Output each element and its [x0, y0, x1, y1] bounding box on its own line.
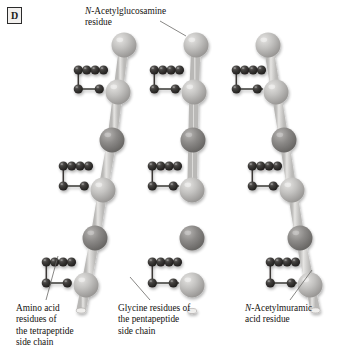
sphere-specular-highlight	[150, 259, 153, 261]
glycine-residue-sphere	[169, 181, 178, 190]
sphere-specular-highlight	[173, 86, 176, 88]
label-amino-line4: side chain	[16, 337, 53, 347]
sphere-specular-highlight	[234, 86, 237, 88]
nam-residue-sphere	[181, 128, 206, 153]
amino-acid-residue-sphere	[148, 161, 157, 170]
amino-acid-residue-sphere	[257, 65, 266, 74]
amino-acid-residue-sphere	[50, 257, 59, 266]
amino-acid-residue-sphere	[67, 257, 76, 266]
label-nam-line2: acid residue	[245, 314, 290, 324]
sphere-specular-highlight	[69, 259, 72, 261]
sphere-specular-highlight	[61, 163, 64, 165]
sphere-specular-highlight	[61, 183, 64, 185]
amino-acid-residue-sphere	[248, 161, 257, 170]
sphere-specular-highlight	[152, 67, 155, 69]
amino-acid-residue-sphere	[59, 161, 68, 170]
glycine-residue-sphere	[269, 181, 278, 190]
sphere-specular-highlight	[82, 183, 85, 185]
sphere-specular-highlight	[268, 84, 275, 89]
nag-residue-sphere	[182, 80, 207, 105]
amino-acid-residue-sphere	[265, 161, 274, 170]
sphere-specular-highlight	[175, 163, 178, 165]
sphere-specular-highlight	[92, 67, 95, 69]
sphere-specular-highlight	[188, 37, 195, 42]
sphere-specular-highlight	[266, 163, 269, 165]
glycine-residue-sphere	[232, 84, 241, 93]
sphere-specular-highlight	[69, 163, 72, 165]
label-glycine-line2: the pentapeptide	[118, 314, 179, 324]
label-nag-line2: residue	[85, 17, 112, 27]
sphere-specular-highlight	[259, 67, 262, 69]
sphere-specular-highlight	[150, 183, 153, 185]
sphere-specular-highlight	[44, 280, 47, 282]
sphere-specular-highlight	[242, 67, 245, 69]
sphere-specular-highlight	[78, 277, 85, 282]
glycine-residue-sphere	[150, 84, 159, 93]
nag-residue-sphere	[180, 178, 205, 203]
sphere-specular-highlight	[184, 182, 191, 187]
nag-residue-sphere	[74, 273, 99, 298]
glycine-residue-sphere	[169, 278, 178, 287]
glycine-residue-sphere	[266, 278, 275, 287]
amino-acid-residue-sphere	[240, 65, 249, 74]
sphere-specular-highlight	[168, 67, 171, 69]
amino-acid-residue-sphere	[165, 161, 174, 170]
sphere-specular-highlight	[101, 67, 104, 69]
nam-residue-sphere	[100, 128, 125, 153]
amino-acid-residue-sphere	[82, 65, 91, 74]
amino-acid-residue-sphere	[173, 257, 182, 266]
glycine-residue-sphere	[148, 278, 157, 287]
nag-residue-sphere	[264, 80, 289, 105]
sphere-specular-highlight	[260, 37, 267, 42]
sphere-specular-highlight	[150, 280, 153, 282]
glycine-residue-sphere	[248, 181, 257, 190]
nam-residue-sphere	[83, 226, 108, 251]
sphere-specular-highlight	[95, 182, 102, 187]
nam-residue-sphere	[288, 226, 313, 251]
sphere-specular-highlight	[160, 67, 163, 69]
sphere-specular-highlight	[116, 37, 123, 42]
amino-acid-residue-sphere	[165, 257, 174, 266]
sphere-specular-highlight	[152, 86, 155, 88]
label-n-acetylglucosamine: N-Acetylglucosamine residue	[85, 6, 215, 29]
glycine-residue-sphere	[171, 84, 180, 93]
amino-acid-residue-sphere	[173, 161, 182, 170]
label-nam-rest: -Acetylmuramic	[251, 303, 312, 313]
sphere-specular-highlight	[76, 67, 79, 69]
sphere-specular-highlight	[44, 259, 47, 261]
nag-residue-sphere	[184, 33, 209, 58]
label-glycine-residues: Glycine residues of the pentapeptide sid…	[118, 303, 218, 337]
amino-acid-residue-sphere	[42, 257, 51, 266]
amino-acid-residue-sphere	[74, 65, 83, 74]
glycine-residue-sphere	[253, 84, 262, 93]
glycine-residue-sphere	[287, 278, 296, 287]
sphere-specular-highlight	[65, 280, 68, 282]
nam-residue-sphere	[272, 128, 297, 153]
sphere-specular-highlight	[158, 163, 161, 165]
sphere-specular-highlight	[76, 86, 79, 88]
glycine-residue-sphere	[59, 181, 68, 190]
leader-glycine	[130, 277, 150, 300]
label-amino-line2: residues of	[16, 314, 57, 324]
sphere-specular-highlight	[166, 259, 169, 261]
amino-acid-residue-sphere	[84, 161, 93, 170]
sphere-specular-highlight	[258, 163, 261, 165]
sphere-specular-highlight	[289, 280, 292, 282]
sphere-specular-highlight	[52, 259, 55, 261]
sphere-specular-highlight	[184, 277, 191, 282]
sphere-specular-highlight	[177, 67, 180, 69]
nag-residue-sphere	[112, 33, 137, 58]
nag-residue-sphere	[180, 273, 205, 298]
label-amino-line1: Amino acid	[16, 303, 60, 313]
label-nag-rest: -Acetylglucosamine	[91, 6, 166, 16]
sphere-specular-highlight	[276, 259, 279, 261]
amino-acid-residue-sphere	[158, 65, 167, 74]
amino-acid-residue-sphere	[150, 65, 159, 74]
sphere-specular-highlight	[171, 183, 174, 185]
glycine-residue-sphere	[63, 278, 72, 287]
amino-acid-residue-sphere	[91, 65, 100, 74]
glycine-residue-sphere	[80, 181, 89, 190]
glycine-residue-sphere	[95, 84, 104, 93]
peptide-bond-lines	[46, 70, 296, 283]
sphere-specular-highlight	[234, 67, 237, 69]
